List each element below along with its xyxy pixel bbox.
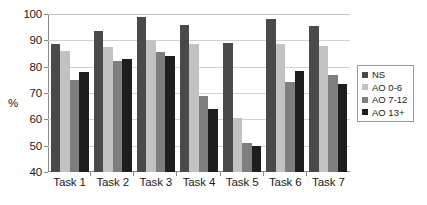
legend-item[interactable]: AO 7-12 [362,95,407,105]
bar [285,82,295,172]
bar [252,146,262,172]
bar-group [307,14,350,172]
bar [199,96,209,172]
legend-item[interactable]: AO 13+ [362,108,407,118]
legend-swatch-icon [362,97,368,103]
bar [295,71,305,172]
x-axis-labels: Task 1Task 2Task 3Task 4Task 5Task 6Task… [48,176,350,188]
x-axis-tick-label: Task 5 [221,176,264,188]
y-axis-tick-label: 70 [30,87,42,99]
bar [223,43,233,172]
bar [180,25,190,172]
legend-swatch-icon [362,109,368,115]
bar [156,52,166,172]
y-axis-tick-label: 100 [23,8,42,20]
bar [242,143,252,172]
bar [189,44,199,172]
bar [276,44,286,172]
bar-group [91,14,134,172]
x-axis-tick-label: Task 6 [264,176,307,188]
bar-chart: % 100908070605040 Task 1Task 2Task 3Task… [0,0,427,205]
bar-group [264,14,307,172]
bar [165,56,175,172]
bar [338,84,348,172]
bar [70,80,80,172]
bar [319,46,329,172]
legend-label: NS [372,70,385,80]
bar [146,40,156,172]
bar [51,44,61,172]
bar [113,61,123,172]
bar [122,59,132,172]
bar-group [177,14,220,172]
bar-groups [48,14,350,172]
x-axis-tick-label: Task 4 [177,176,220,188]
x-axis-tick-label: Task 3 [134,176,177,188]
legend-label: AO 13+ [372,108,404,118]
y-axis-tick-label: 90 [30,34,42,46]
legend-label: AO 7-12 [372,95,407,105]
bar [103,47,113,172]
x-axis-tick-label: Task 1 [48,176,91,188]
legend-item[interactable]: AO 0-6 [362,83,407,93]
bar [60,51,70,172]
bar [79,72,89,172]
bar-group [134,14,177,172]
plot-area: 100908070605040 [48,14,350,172]
legend-label: AO 0-6 [372,83,402,93]
y-axis-tick-label: 40 [30,166,42,178]
x-axis-tick-label: Task 2 [91,176,134,188]
bar [266,19,276,172]
y-axis-title: % [8,97,18,109]
bar [233,118,243,172]
bar [137,17,147,172]
bar [208,109,218,172]
y-axis-tick [44,172,48,173]
y-axis-tick-label: 80 [30,61,42,73]
bar [328,75,338,172]
bar-group [48,14,91,172]
legend-item[interactable]: NS [362,70,407,80]
bar [309,26,319,172]
y-axis-tick-label: 60 [30,113,42,125]
legend-swatch-icon [362,84,368,90]
x-axis-tick-label: Task 7 [307,176,350,188]
bar [94,31,104,172]
y-axis-tick-label: 50 [30,140,42,152]
chart-legend: NSAO 0-6AO 7-12AO 13+ [357,65,414,122]
legend-swatch-icon [362,72,368,78]
bar-group [221,14,264,172]
